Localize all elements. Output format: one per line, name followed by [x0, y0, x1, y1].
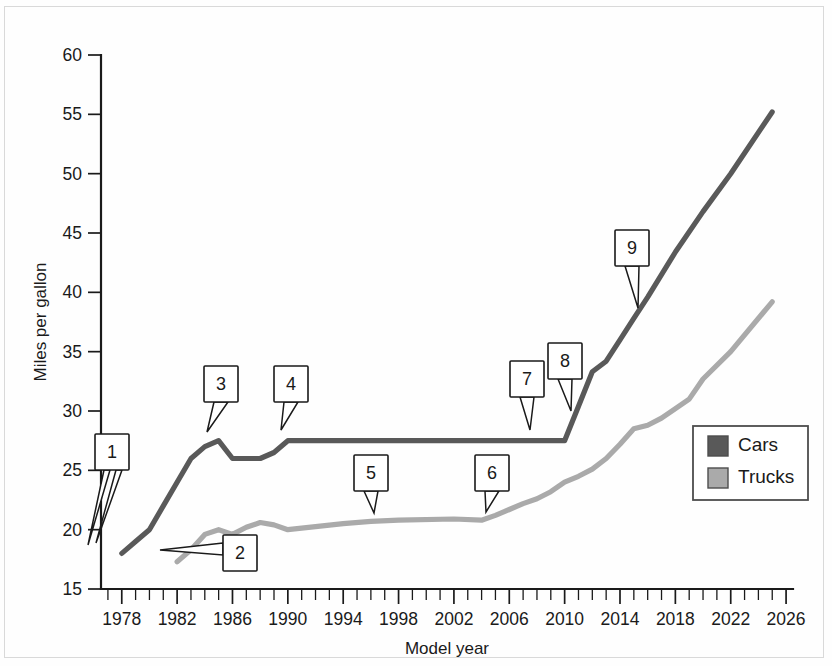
- y-axis-title: Miles per gallon: [31, 262, 50, 381]
- callout-pointer: [558, 379, 572, 411]
- callout-label: 8: [560, 351, 570, 371]
- legend-label-cars: Cars: [738, 434, 778, 455]
- x-tick-label: 2010: [545, 609, 584, 629]
- callout-2: 2: [160, 535, 257, 571]
- legend-label-trucks: Trucks: [738, 466, 794, 487]
- x-tick-label: 2006: [490, 609, 529, 629]
- y-axis: 15202530354045505560 Miles per gallon: [31, 45, 101, 599]
- x-tick-label: 1978: [102, 609, 141, 629]
- x-tick-label: 1982: [158, 609, 197, 629]
- callout-label: 9: [627, 238, 637, 258]
- x-tick-label: 1998: [379, 609, 418, 629]
- legend: CarsTrucks: [693, 426, 808, 500]
- x-axis: 1978198219861990199419982002200620102014…: [101, 589, 806, 658]
- callout-label: 3: [216, 374, 226, 394]
- x-tick-label: 1994: [324, 609, 363, 629]
- callout-5: 5: [354, 455, 388, 513]
- callout-7: 7: [510, 361, 544, 430]
- legend-swatch-cars: [708, 436, 728, 456]
- callout-label: 4: [286, 374, 296, 394]
- callout-4: 4: [274, 366, 308, 430]
- x-tick-label: 2026: [767, 609, 806, 629]
- callout-label: 1: [107, 442, 117, 462]
- line-chart-svg: 15202530354045505560 Miles per gallon 19…: [0, 0, 832, 666]
- x-tick-label: 2022: [711, 609, 750, 629]
- x-tick-group: 1978198219861990199419982002200620102014…: [102, 589, 805, 629]
- x-tick-label: 1990: [268, 609, 307, 629]
- chart-figure: 15202530354045505560 Miles per gallon 19…: [0, 0, 832, 666]
- legend-swatch-trucks: [708, 468, 728, 488]
- callout-label: 6: [487, 463, 497, 483]
- callout-6: 6: [475, 455, 509, 512]
- x-tick-label: 2014: [601, 609, 640, 629]
- callout-pointer: [625, 266, 639, 308]
- callout-8: 8: [548, 343, 582, 411]
- x-tick-label: 2018: [656, 609, 695, 629]
- y-tick-label: 30: [63, 401, 83, 421]
- series-line-cars: [122, 112, 772, 553]
- y-tick-label: 50: [63, 164, 83, 184]
- y-tick-label: 25: [63, 460, 82, 480]
- x-tick-label: 2002: [434, 609, 473, 629]
- y-tick-label: 15: [63, 579, 82, 599]
- y-tick-label: 45: [63, 223, 82, 243]
- series-line-trucks: [177, 302, 772, 562]
- callout-label: 5: [366, 463, 376, 483]
- y-tick-label: 60: [63, 45, 83, 65]
- y-tick-label: 40: [63, 282, 83, 302]
- callout-pointer: [485, 491, 499, 512]
- y-tick-label: 35: [63, 342, 82, 362]
- y-tick-label: 55: [63, 104, 82, 124]
- callout-pointer: [160, 543, 223, 555]
- y-tick-label: 20: [63, 520, 83, 540]
- callout-pointer: [207, 402, 228, 432]
- data-series-group: [122, 112, 772, 562]
- callout-9: 9: [615, 230, 649, 308]
- callout-label: 7: [522, 369, 532, 389]
- x-axis-title: Model year: [405, 639, 489, 658]
- x-tick-label: 1986: [213, 609, 252, 629]
- callout-pointer: [520, 397, 534, 430]
- callout-pointer: [281, 402, 298, 430]
- callout-1: 1: [88, 434, 129, 545]
- callout-3: 3: [204, 366, 238, 432]
- callout-label: 2: [235, 543, 245, 563]
- callout-pointer: [364, 491, 378, 513]
